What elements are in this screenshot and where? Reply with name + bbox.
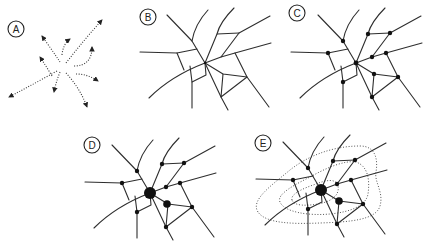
panel-label-d: D (84, 137, 100, 153)
svg-text:A: A (13, 24, 20, 35)
hierarchical-network-with-zones (256, 135, 387, 237)
panel-b: B (140, 8, 271, 110)
route-network-with-nodes (291, 8, 422, 110)
central-node (144, 187, 156, 199)
panel-label-b: B (140, 9, 156, 25)
network-development-figure: A B C (0, 0, 430, 249)
panel-a: A (8, 20, 102, 107)
svg-text:B: B (145, 12, 152, 23)
panel-e: E (255, 135, 387, 237)
route-network (140, 8, 271, 110)
secondary-node (163, 200, 171, 208)
central-node (315, 184, 327, 196)
svg-text:E: E (260, 138, 267, 149)
secondary-node (335, 197, 343, 205)
panel-d: D (84, 137, 216, 240)
panel-label-c: C (289, 5, 305, 21)
hierarchical-network (85, 138, 216, 240)
svg-text:C: C (293, 8, 300, 19)
panel-label-a: A (8, 21, 24, 37)
panel-label-e: E (255, 135, 271, 151)
panel-c: C (289, 5, 422, 110)
svg-text:D: D (88, 140, 95, 151)
